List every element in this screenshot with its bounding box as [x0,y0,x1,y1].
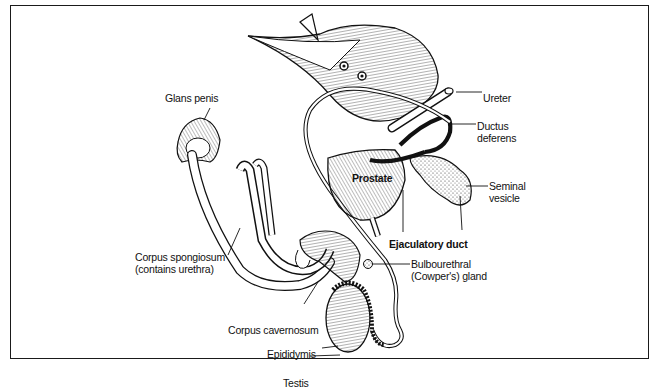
label-ureter: Ureter [483,92,511,104]
label-ejaculatory-duct: Ejaculatory duct [389,238,468,250]
label-bulbourethral-gland: Bulbourethral (Cowper's) gland [411,258,487,282]
seminal-vesicle [410,156,471,205]
label-testis: Testis [283,377,309,389]
label-corpus-cavernosum: Corpus cavernosum [228,324,319,336]
label-prostate: Prostate [352,172,392,184]
label-epididymis: Epididymis [267,348,316,360]
label-seminal-vesicle: Seminal vesicle [489,180,526,204]
glans-penis [177,118,220,162]
label-glans-penis: Glans penis [165,92,218,104]
label-corpus-spongiosum: Corpus spongiosum (contains urethra) [135,251,225,275]
bulbourethral-gland [364,260,373,269]
prostate [328,150,405,236]
testis [326,283,385,352]
bladder [248,14,438,121]
label-ductus-deferens: Ductus deferens [477,120,516,144]
